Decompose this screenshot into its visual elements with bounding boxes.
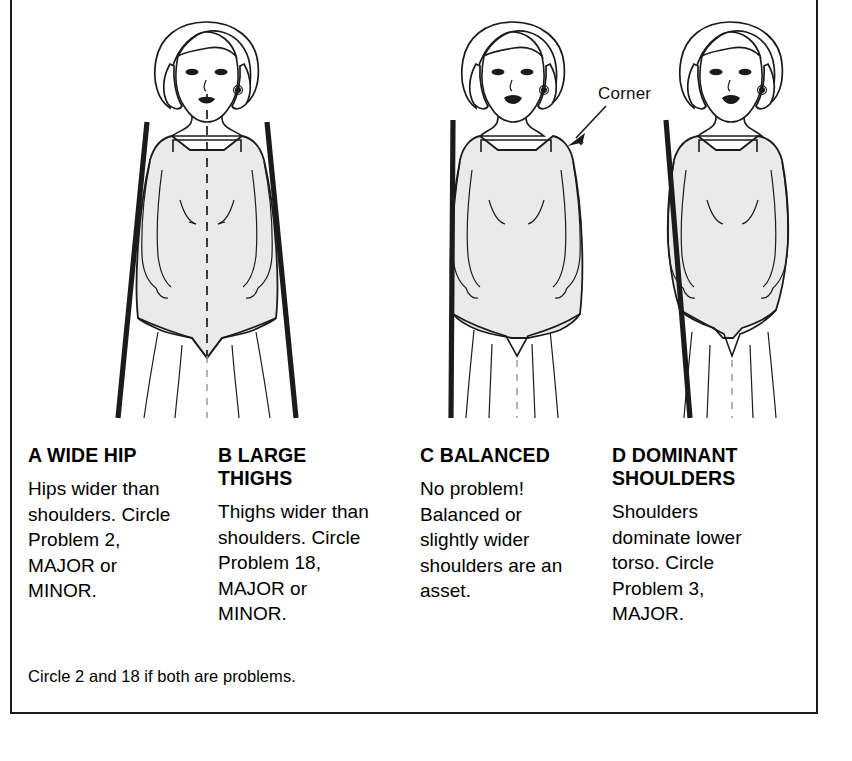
wide-hip-figure — [118, 22, 296, 418]
column-d-dominant-shoulders: D DOMINANT SHOULDERS Shoulders dominate … — [612, 444, 802, 627]
column-a-body: Hips wider than shoulders. Circle Proble… — [28, 476, 200, 604]
column-a-wide-hip: A WIDE HIP Hips wider than shoulders. Ci… — [28, 444, 200, 604]
column-a-heading: A WIDE HIP — [28, 444, 200, 467]
column-c-balanced: C BALANCED No problem! Balanced or sligh… — [420, 444, 600, 604]
column-b-body: Thighs wider than shoulders. Circle Prob… — [218, 499, 390, 627]
description-columns: A WIDE HIP Hips wider than shoulders. Ci… — [10, 444, 818, 674]
column-b-heading: B LARGE THIGHS — [218, 444, 390, 490]
corner-label: Corner — [598, 84, 651, 104]
footnote-text: Circle 2 and 18 if both are problems. — [28, 666, 296, 686]
corner-arrow-icon — [567, 106, 606, 147]
column-c-body: No problem! Balanced or slightly wider s… — [420, 476, 600, 604]
column-b-large-thighs: B LARGE THIGHS Thighs wider than shoulde… — [218, 444, 390, 627]
column-c-heading: C BALANCED — [420, 444, 600, 467]
page-root: Corner A WIDE HIP Hips wider than should… — [0, 0, 852, 761]
illustration-band — [10, 0, 818, 436]
column-d-heading: D DOMINANT SHOULDERS — [612, 444, 802, 490]
balanced-figure — [451, 22, 583, 418]
dominant-shoulders-figure — [666, 22, 788, 418]
column-d-body: Shoulders dominate lower torso. Circle P… — [612, 499, 802, 627]
